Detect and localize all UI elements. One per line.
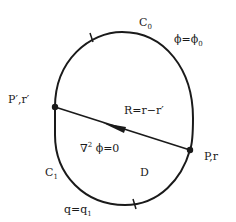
point-source-dot	[52, 104, 58, 110]
boundary-lower-label: C1	[45, 166, 58, 181]
point-field-dot	[187, 147, 193, 153]
point-source-label: P′,r′	[8, 93, 30, 106]
boundary-lower-condition: q=q1	[64, 203, 92, 218]
domain-label: D	[140, 166, 149, 179]
point-field-label: P,r	[204, 150, 219, 163]
boundary-upper-label: C0	[139, 16, 152, 31]
domain-boundary-curve	[55, 32, 193, 205]
vector-arrowhead-icon	[103, 123, 126, 133]
green-function-domain-diagram: C0 ϕ=ϕ0 P′,r′ R=r−r′ ∇2 ϕ=0 P,r C1 D q=q…	[0, 0, 236, 222]
boundary-upper-condition: ϕ=ϕ0	[174, 33, 203, 48]
laplace-equation-label: ∇2 ϕ=0	[80, 141, 119, 155]
vector-label: R=r−r′	[124, 104, 164, 117]
